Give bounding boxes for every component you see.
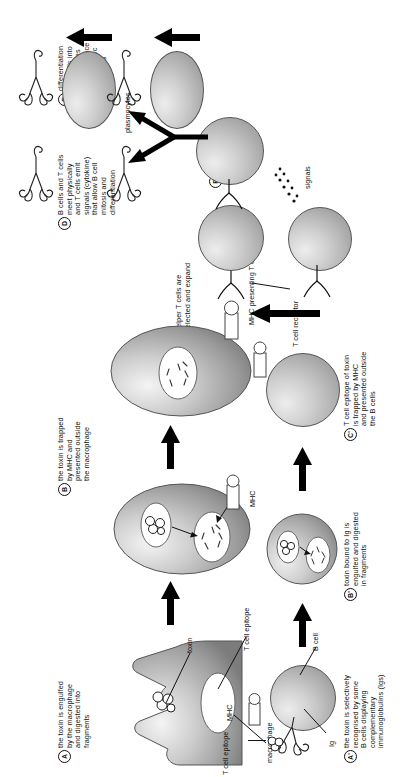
figure-canvas: A the toxin is engulfed by the macrophag… (0, 0, 409, 777)
mhc-molecule-icon (222, 465, 244, 511)
step-tag-D: D (58, 217, 71, 230)
plasmocyte-2 (150, 51, 204, 129)
arrow-Bprime-to-Cprime (292, 447, 314, 491)
mhc-presenting-icon-bcell (248, 333, 272, 379)
step-text-A-prime: the toxin is selectively recognised by s… (343, 628, 386, 748)
antibody-group-row-1 (16, 21, 56, 211)
step-tag-A: A (58, 750, 71, 763)
cytokine-signal-dots (268, 159, 302, 205)
label-t-cell-epitope-2: T cell epitope (222, 732, 230, 775)
step-text-C-prime: T cell epitope of toxin is trapped by MH… (343, 302, 377, 426)
step-tag-C-prime: C' (344, 428, 357, 441)
mhc-molecule-icon-2 (244, 685, 266, 727)
step-text-B-prime: toxin bound to Ig is engulfed and digest… (343, 466, 369, 586)
label-ig: Ig (328, 741, 336, 747)
b-cell-receptor-icon (300, 263, 334, 299)
step-text-C: helper T cells are selected and expand (175, 222, 192, 332)
t-cell-receptor-icon-2 (212, 177, 246, 211)
helper-t-cell (198, 205, 264, 271)
step-tag-B: B (58, 483, 71, 496)
b-cell-meeting (288, 207, 352, 271)
step-text-A: the toxin is engulfed by the macrophage … (57, 638, 91, 748)
step-text-B: the toxin is trapped by MHC and presente… (57, 371, 91, 481)
label-t-cell-epitope: T cell epitope (243, 608, 251, 651)
label-signals: signals (304, 166, 312, 189)
ig-leader-line (300, 705, 330, 739)
arrow-Aprime-to-Bprime (292, 603, 314, 647)
step-tag-B-prime: B' (344, 588, 357, 601)
label-mhc: MHC (249, 490, 257, 507)
arrow-A-to-B (160, 581, 182, 625)
label-mhc-2: MHC (226, 704, 234, 721)
arrow-plasmocyte-2-antibodies (152, 25, 200, 49)
b-cell-presenting (266, 353, 340, 427)
arrow-B-to-C (160, 425, 182, 469)
label-toxin: toxin (186, 638, 194, 653)
b-cell-digesting (264, 507, 342, 587)
arrow-Cprime-to-D (246, 301, 320, 325)
t-cell-receptor-leader-line (250, 271, 292, 291)
antibody-group-row-2 (104, 21, 144, 211)
step-tag-A-prime: A' (344, 750, 357, 763)
